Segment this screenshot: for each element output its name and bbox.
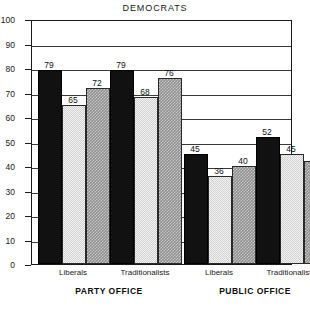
bar-value-label: 36 <box>203 166 235 176</box>
y-axis-tick-label: 10 <box>0 236 15 246</box>
bar <box>158 78 182 264</box>
bar-value-label: 40 <box>227 156 259 166</box>
chart-figure: DEMOCRATS 0102030405060708090100 7965727… <box>0 0 310 309</box>
bar-value-label: 42 <box>299 151 310 161</box>
bar <box>208 176 232 264</box>
y-axis-tick-label: 20 <box>0 211 15 221</box>
bar-value-label: 45 <box>179 144 211 154</box>
y-axis-tick-label: 50 <box>0 138 15 148</box>
bar <box>232 166 256 264</box>
bar <box>256 137 280 264</box>
bar <box>280 154 304 264</box>
bar-value-label: 68 <box>129 87 161 97</box>
y-axis-tick-label: 30 <box>0 187 15 197</box>
chart-title: DEMOCRATS <box>0 3 310 13</box>
bar-value-label: 72 <box>81 78 113 88</box>
bar-value-label: 52 <box>251 127 283 137</box>
y-axis-tick-label: 90 <box>0 40 15 50</box>
x-axis-group-label: PUBLIC OFFICE <box>195 286 310 296</box>
bar <box>134 97 158 264</box>
y-axis-tick-label: 0 <box>0 260 15 270</box>
gridline <box>32 46 291 47</box>
bar-value-label: 76 <box>153 68 185 78</box>
bar <box>304 161 310 264</box>
x-axis-category-label: Traditionalists <box>246 268 310 277</box>
bar-value-label: 79 <box>105 60 137 70</box>
y-axis-tick-label: 70 <box>0 89 15 99</box>
bar-value-label: 65 <box>57 95 89 105</box>
plot-area <box>31 20 292 265</box>
y-axis-tick-label: 80 <box>0 64 15 74</box>
y-axis-tick-mark <box>25 265 31 266</box>
x-axis-group-label: PARTY OFFICE <box>49 286 169 296</box>
y-axis-tick-label: 100 <box>0 15 15 25</box>
y-axis-tick-label: 40 <box>0 162 15 172</box>
bar <box>62 105 86 264</box>
bar <box>86 88 110 264</box>
y-axis-tick-label: 60 <box>0 113 15 123</box>
bar-value-label: 79 <box>33 60 65 70</box>
bar <box>110 70 134 264</box>
